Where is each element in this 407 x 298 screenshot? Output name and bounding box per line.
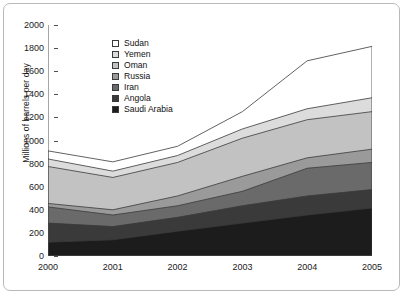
legend-swatch-icon (112, 95, 119, 102)
legend-swatch-icon (112, 106, 119, 113)
legend-label: Yemen (124, 49, 150, 60)
y-tick-1000: 1000 (10, 136, 44, 146)
plot-area (48, 25, 372, 256)
legend-label: Angola (124, 93, 151, 104)
legend-item-sudan[interactable]: Sudan (112, 38, 173, 49)
y-tick-0: 0 (10, 251, 44, 261)
legend-item-yemen[interactable]: Yemen (112, 49, 173, 60)
x-tick-2001: 2001 (103, 262, 123, 272)
x-tick-2004: 2004 (297, 262, 317, 272)
legend-label: Saudi Arabia (124, 104, 173, 115)
stacked-area-chart: Millions of barrels per day 020040060080… (0, 0, 407, 298)
legend-item-russia[interactable]: Russia (112, 71, 173, 82)
legend-item-oman[interactable]: Oman (112, 60, 173, 71)
legend-label: Sudan (124, 38, 149, 49)
legend-label: Russia (124, 71, 150, 82)
legend-label: Oman (124, 60, 147, 71)
legend-swatch-icon (112, 62, 119, 69)
area-series-group (48, 25, 372, 256)
y-axis-tick-labels: 0200400600800100012001400160018002000 (10, 0, 44, 298)
y-tick-1600: 1600 (10, 66, 44, 76)
x-tick-2002: 2002 (168, 262, 188, 272)
y-tick-1800: 1800 (10, 43, 44, 53)
legend-swatch-icon (112, 51, 119, 58)
legend-item-angola[interactable]: Angola (112, 93, 173, 104)
x-tick-2003: 2003 (232, 262, 252, 272)
y-tick-2000: 2000 (10, 20, 44, 30)
y-tick-1400: 1400 (10, 89, 44, 99)
x-tick-2005: 2005 (362, 262, 382, 272)
legend-item-iran[interactable]: Iran (112, 82, 173, 93)
y-tickmark-0 (54, 256, 58, 257)
legend-swatch-icon (112, 73, 119, 80)
y-tick-200: 200 (10, 228, 44, 238)
y-tick-1200: 1200 (10, 112, 44, 122)
legend-item-saudi-arabia[interactable]: Saudi Arabia (112, 104, 173, 115)
x-tick-2000: 2000 (38, 262, 58, 272)
y-tick-800: 800 (10, 159, 44, 169)
y-tick-400: 400 (10, 205, 44, 215)
y-tick-600: 600 (10, 182, 44, 192)
legend-label: Iran (124, 82, 139, 93)
chart-legend: SudanYemenOmanRussiaIranAngolaSaudi Arab… (112, 38, 173, 115)
legend-swatch-icon (112, 40, 119, 47)
legend-swatch-icon (112, 84, 119, 91)
